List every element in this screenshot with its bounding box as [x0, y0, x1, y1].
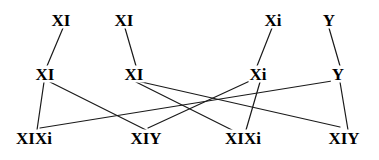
- edge-t1-to-m1: [47, 28, 63, 66]
- node-t2-label: XI: [114, 12, 135, 29]
- node-m3-label: Xi: [249, 66, 268, 83]
- edge-m1-to-b1: [37, 82, 44, 130]
- edge-m4-to-b4: [340, 82, 348, 130]
- node-m4-label: Y: [331, 66, 345, 83]
- node-b2-label: XIY: [129, 130, 162, 147]
- edge-t4-to-m4: [329, 28, 340, 66]
- edge-t2-to-m2: [125, 28, 136, 66]
- node-b1-label: XIXi: [15, 130, 53, 147]
- edge-m1-to-b2: [50, 82, 146, 130]
- node-t1-label: XI: [51, 12, 72, 29]
- edge-m2-to-b3: [136, 82, 232, 130]
- genetic-cross-diagram: XIXIXiYXIXIXiYXIXiXIYXIXiXIY: [0, 0, 379, 160]
- node-m2-label: XI: [124, 66, 145, 83]
- edges-group: [37, 28, 348, 130]
- node-t4-label: Y: [322, 12, 336, 29]
- edge-m4-to-b1: [40, 81, 332, 128]
- node-m1-label: XI: [35, 66, 56, 83]
- edge-t3-to-m3: [257, 28, 272, 66]
- node-b3-label: XIXi: [224, 130, 262, 147]
- edge-m2-to-b4: [137, 81, 340, 127]
- node-b4-label: XIY: [327, 130, 360, 147]
- node-t3-label: Xi: [264, 12, 283, 29]
